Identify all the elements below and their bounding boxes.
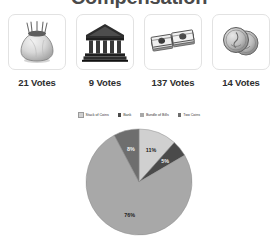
legend-label: Two Coins	[183, 113, 200, 117]
pie-slice-label: 11%	[146, 147, 157, 153]
option-votes-label: 21 Votes	[18, 77, 56, 88]
option-bank[interactable]: 9 Votes	[75, 14, 135, 88]
legend-item-bundle-of-bills[interactable]: Bundle of Bills	[140, 113, 168, 117]
options-row: 21 Votes 9 Votes	[0, 14, 278, 88]
bundle-of-bills-icon	[149, 25, 197, 59]
option-bundle-of-bills[interactable]: 137 Votes	[143, 14, 203, 88]
pie-slice-label: 76%	[124, 212, 135, 218]
pie-chart[interactable]: 11%5%76%8%	[83, 126, 195, 238]
legend-item-stack-of-coins[interactable]: Stack of Coins	[78, 112, 109, 118]
legend-label: Bundle of Bills	[146, 113, 169, 117]
chart-legend: Stack of Coins Bank Bundle of Bills Two …	[0, 112, 278, 118]
option-votes-label: 137 Votes	[152, 77, 195, 88]
pie-slice-label: 5%	[161, 158, 169, 164]
legend-label: Bank	[123, 113, 131, 117]
legend-item-bank[interactable]: Bank	[118, 113, 132, 117]
pie-chart-svg[interactable]: 11%5%76%8%	[83, 126, 195, 238]
option-votes-label: 9 Votes	[89, 77, 121, 88]
option-stack-of-coins[interactable]: 21 Votes	[7, 14, 67, 88]
money-bag-icon	[16, 19, 58, 65]
bank-building-icon	[82, 21, 128, 63]
legend-swatch	[140, 113, 144, 117]
option-two-coins[interactable]: 14 Votes	[211, 14, 271, 88]
legend-swatch	[78, 112, 84, 118]
legend-swatch	[118, 113, 122, 117]
page-title: Compensation	[0, 0, 278, 7]
legend-label: Stack of Coins	[86, 113, 109, 117]
two-coins-icon	[219, 22, 263, 62]
option-image-card[interactable]	[144, 14, 202, 70]
option-votes-label: 14 Votes	[222, 77, 260, 88]
option-image-card[interactable]	[76, 14, 134, 70]
pie-slice-label: 8%	[127, 146, 135, 152]
pie-chart-area: 11%5%76%8%	[0, 124, 278, 239]
option-image-card[interactable]	[212, 14, 270, 70]
legend-item-two-coins[interactable]: Two Coins	[178, 113, 200, 117]
legend-swatch	[178, 113, 182, 117]
option-image-card[interactable]	[8, 14, 66, 70]
